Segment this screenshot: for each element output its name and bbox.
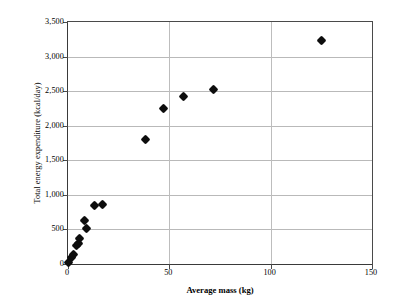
- x-axis-tick-label: 150: [365, 268, 377, 277]
- gridline-horizontal: [68, 195, 372, 196]
- gridline-horizontal: [68, 57, 372, 58]
- gridline-vertical: [169, 22, 170, 264]
- gridline-horizontal: [68, 126, 372, 127]
- plot-area: [67, 21, 373, 265]
- gridline-horizontal: [68, 91, 372, 92]
- data-point: [98, 200, 108, 210]
- x-axis-tick-label: 0: [65, 268, 69, 277]
- y-axis-tick-label: 2,000: [45, 120, 64, 129]
- data-point: [140, 134, 150, 144]
- gridline-horizontal: [68, 160, 372, 161]
- y-axis-tick-label: 1,000: [45, 189, 64, 198]
- x-axis-tick-label: 100: [264, 268, 276, 277]
- y-axis-tick-label: 1,500: [45, 155, 64, 164]
- data-point: [209, 84, 219, 94]
- y-axis-title: Total energy expenditure (kcal/day): [33, 21, 42, 265]
- scatter-chart-figure: Total energy expenditure (kcal/day) Aver…: [0, 0, 395, 307]
- y-axis-tick-label: 0: [60, 259, 64, 268]
- data-point: [158, 103, 168, 113]
- gridline-vertical: [271, 22, 272, 264]
- y-axis-tick-label: 3,000: [45, 51, 64, 60]
- y-axis-tick-label: 500: [51, 224, 64, 233]
- y-axis-tick-label: 2,500: [45, 86, 64, 95]
- gridline-horizontal: [68, 229, 372, 230]
- data-point: [179, 92, 189, 102]
- data-point: [316, 36, 326, 46]
- x-axis-tick-label: 50: [164, 268, 172, 277]
- y-axis-tick-label: 3,500: [45, 17, 64, 26]
- x-axis-title: Average mass (kg): [67, 285, 373, 295]
